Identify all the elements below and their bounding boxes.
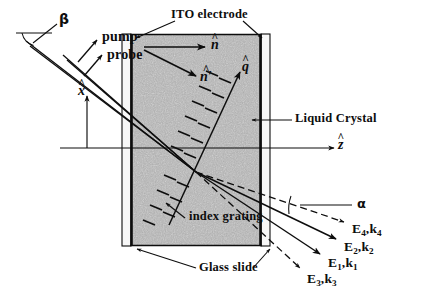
probe-label: probe <box>107 48 143 62</box>
beam-label-E3: E3,k3 <box>307 272 337 288</box>
beam-label-E2: E2,k2 <box>344 240 374 256</box>
q-hat-caret: ^ <box>242 54 249 65</box>
liquid-crystal-label: Liquid Crystal <box>295 112 377 125</box>
z-hat-caret: ^ <box>337 132 344 143</box>
beam-E3-field-sub: 3 <box>316 278 321 288</box>
glass-slide-label: Glass slide <box>199 261 258 274</box>
n-hat-caret: ^ <box>212 32 219 43</box>
beam-E2-wave: k <box>361 239 369 254</box>
beam-E4-wave-sub: 4 <box>377 228 382 238</box>
n-hat-prime-caret: ^ <box>203 64 210 75</box>
beam-label-E1: E1,k1 <box>328 256 358 272</box>
beam-E3-wave-sub: 3 <box>332 278 337 288</box>
index-grating-label: index grating <box>189 210 263 223</box>
beam-E2-field-sub: 2 <box>353 246 358 256</box>
x-hat-caret: ^ <box>78 78 85 89</box>
beam-E4-field-sub: 4 <box>361 228 366 238</box>
n-hat-label: ^n <box>211 38 219 52</box>
beam-E3-wave: k <box>324 271 332 286</box>
figure-root: β pump probe ITO electrode Liquid Crysta… <box>0 0 424 304</box>
beam-label-E4: E4,k4 <box>352 222 382 238</box>
beam-E1-wave-sub: 1 <box>353 262 358 272</box>
beam-E1-field-sub: 1 <box>337 262 342 272</box>
beam-E3-field: E <box>307 271 316 286</box>
q-hat-label: ^q <box>242 60 249 74</box>
pump-label: pump <box>102 30 138 44</box>
beam-E2-wave-sub: 2 <box>369 246 374 256</box>
beam-E4-wave: k <box>369 221 377 236</box>
x-hat-label: ^x <box>78 84 85 98</box>
ito-electrode-label: ITO electrode <box>171 8 248 21</box>
beam-E1-field: E <box>328 255 337 270</box>
beam-E1-wave: k <box>345 255 353 270</box>
z-hat-label: ^z <box>338 138 344 152</box>
angle-alpha-label: α <box>357 197 366 210</box>
beam-E2-field: E <box>344 239 353 254</box>
beam-E4-field: E <box>352 221 361 236</box>
angle-beta-label: β <box>59 12 69 26</box>
n-hat-prime-label: ^n′ <box>200 70 212 84</box>
